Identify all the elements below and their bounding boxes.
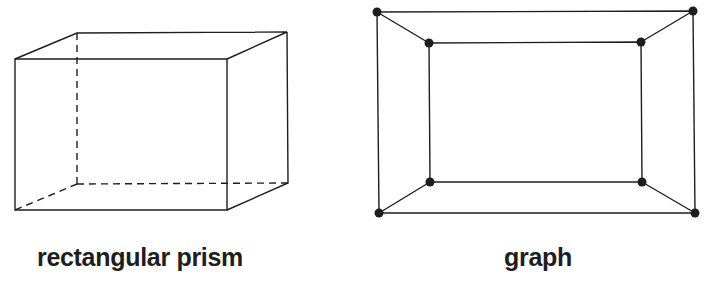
graph-vertex (689, 7, 698, 16)
graph-vertex (426, 178, 435, 187)
prism-caption: rectangular prism (37, 243, 243, 272)
graph-spoke-tl (377, 12, 429, 43)
graph-drawing (373, 7, 700, 218)
graph-inner-cycle (429, 42, 642, 182)
graph-vertex (637, 38, 646, 47)
graph-vertex (691, 209, 700, 218)
graph-vertex (375, 209, 384, 218)
graph-vertex (425, 39, 434, 48)
graph-spoke-br (642, 182, 695, 213)
prism-front-face (15, 59, 227, 210)
graph-vertex (373, 8, 382, 17)
prism-top-back-edges (15, 32, 287, 59)
graph-vertex (638, 178, 647, 187)
graph-spoke-bl (379, 182, 430, 213)
rectangular-prism-drawing (15, 32, 288, 210)
graph-caption: graph (504, 243, 572, 272)
graph-spoke-tr (641, 11, 693, 42)
